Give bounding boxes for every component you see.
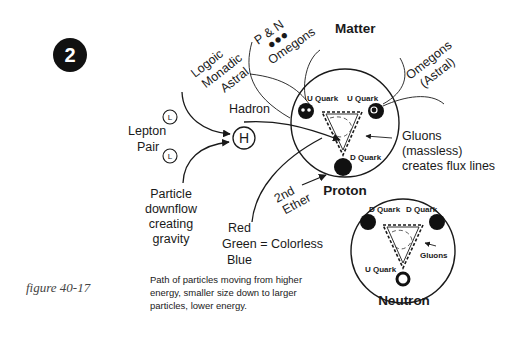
particle-text: Particle (150, 187, 192, 201)
gravity-text: gravity (153, 232, 191, 246)
particle-diagram: 2 Logoic Monadic Astral P & N ●●● Omegon… (0, 0, 530, 340)
neutron: D Quark D Quark U Quark Gluons Neutron (351, 199, 455, 308)
lepton-node-bottom: L (163, 149, 177, 163)
l-symbol-bottom: L (168, 152, 173, 161)
neutron-quark-top-left-label: D Quark (369, 205, 401, 214)
downflow-label: Particle downflow creating gravity (145, 187, 198, 246)
proton: U Quark U Quark D Quark Proton (291, 69, 399, 198)
neutron-title: Neutron (378, 293, 430, 308)
hadron-label: Hadron (229, 102, 270, 116)
green-text: Green = Colorless (222, 237, 323, 251)
downflow-arrow (183, 142, 229, 183)
h-symbol: H (239, 130, 249, 146)
lepton-label: Lepton (128, 124, 166, 138)
proton-quark-top-left-label: U Quark (307, 94, 339, 103)
downflow-text: downflow (145, 202, 198, 216)
neutron-quark-top-right-label: D Quark (406, 205, 438, 214)
caption-line-3: particles, lower energy. (150, 300, 247, 311)
neutron-d-quark-left (360, 214, 376, 230)
omegons-astral-label: Omegons (Astral) (403, 38, 464, 94)
logoic-arrow (182, 92, 230, 134)
neutron-gluons-label: Gluons (420, 251, 448, 260)
step-badge: 2 (53, 38, 87, 72)
proton-u-quark-right (368, 103, 384, 119)
proton-quark-bottom-label: D Quark (350, 153, 382, 162)
caption: Path of particles moving from higher ene… (150, 274, 302, 311)
massless-text: (massless) (402, 144, 462, 158)
gluons-label: Gluons (massless) creates flux lines (402, 129, 495, 173)
matter-label: Matter (335, 21, 376, 36)
top-curve (305, 50, 320, 100)
red-text: Red (228, 221, 251, 235)
ether-label: 2nd Ether (272, 178, 313, 218)
gluons-arrow (366, 136, 392, 138)
neutron-u-quark (397, 273, 409, 285)
caption-line-1: Path of particles moving from higher (150, 274, 302, 285)
flux-text: creates flux lines (402, 159, 495, 173)
figure-label: figure 40-17 (26, 280, 91, 295)
color-label: Red Green = Colorless Blue (222, 221, 323, 267)
blue-text: Blue (227, 253, 252, 267)
neutron-gluons-arrow (425, 243, 436, 246)
l-symbol-top: L (168, 113, 173, 122)
lepton-node-top: L (163, 110, 177, 124)
omegon-curve-1 (383, 58, 405, 104)
neutron-d-quark-right (429, 214, 445, 230)
pair-label: Pair (137, 140, 159, 154)
proton-quark-top-right-label: U Quark (347, 94, 379, 103)
proton-u-quark-left (298, 103, 314, 119)
proton-title: Proton (323, 183, 367, 198)
pn-omegons-label: P & N ●●● Omegons (252, 5, 318, 67)
hadron-node: H (233, 127, 255, 149)
gluons-text: Gluons (402, 129, 442, 143)
creating-text: creating (149, 217, 194, 231)
badge-number: 2 (64, 44, 75, 66)
neutron-quark-bottom-label: U Quark (365, 265, 397, 274)
logoic-label: Logoic Monadic Astral (188, 39, 254, 104)
caption-line-2: energy, smaller size down to larger (150, 287, 297, 298)
